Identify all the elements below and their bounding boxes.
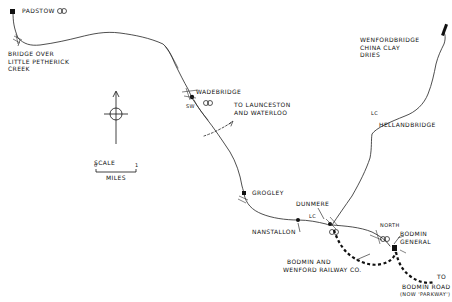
label-to-launceston: To Launceston and Waterloo <box>234 101 291 116</box>
label-bodmin-wenford-railway: Bodmin and Wenford Railway Co. <box>283 258 362 273</box>
scale-bar <box>96 169 136 172</box>
label-to: To <box>437 273 446 281</box>
wenfordbridge-terminus <box>441 24 448 36</box>
label-bridge-over-creek: Bridge over Little Petherick Creek <box>8 50 69 73</box>
label-lc-upper: LC <box>371 110 378 118</box>
label-bodmin-general: Bodmin General <box>400 230 431 245</box>
padstow-station <box>10 9 15 14</box>
label-padstow: Padstow <box>22 7 55 15</box>
label-scale-start: 0 <box>94 162 98 170</box>
label-north: North <box>380 222 400 230</box>
railway-map: Padstow Bridge over Little Petherick Cre… <box>0 0 452 302</box>
label-bodmin-road: Bodmin Road (now 'Parkway') <box>400 283 451 298</box>
bwr-to-bodmin-road <box>396 252 434 283</box>
grogley-station <box>242 191 246 195</box>
label-hellandbridge: Hellandbridge <box>379 121 436 129</box>
label-grogley: Grogley <box>252 189 284 197</box>
label-dunmere: Dunmere <box>296 200 329 208</box>
compass-icon <box>104 91 128 144</box>
bodmin-general-station <box>392 245 397 251</box>
label-lc-lower: LC <box>309 213 316 221</box>
nanstallon-station <box>296 218 300 222</box>
label-wenfordbridge-china-clay-dries: Wenfordbridge China Clay Dries <box>360 36 420 59</box>
label-wadebridge: Wadebridge <box>196 88 241 96</box>
label-nanstallon: Nanstallon <box>252 228 296 236</box>
label-scale-end: 1 <box>135 162 139 170</box>
label-scale-unit: Miles <box>106 174 126 182</box>
railway-line-dunmere-wenfordbridge <box>332 32 445 225</box>
label-sw: SW <box>186 103 195 111</box>
